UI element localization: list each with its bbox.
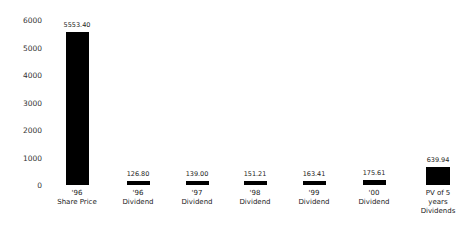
- bar: [244, 181, 267, 185]
- value-label: 639.94: [413, 156, 460, 164]
- bar: [66, 32, 89, 185]
- bar: [186, 181, 209, 185]
- value-label: 126.80: [113, 170, 163, 178]
- y-tick-label: 5000: [2, 43, 42, 52]
- x-tick-label: '96Share Price: [47, 189, 107, 207]
- value-label: 139.00: [172, 170, 222, 178]
- bar: [426, 167, 450, 185]
- x-tick-label: '97Dividend: [167, 189, 227, 207]
- bar: [127, 181, 150, 185]
- value-label: 163.41: [289, 170, 339, 178]
- x-tick-label: '98Dividend: [225, 189, 285, 207]
- x-tick-label: PV of 5yearsDividends: [408, 189, 460, 216]
- y-tick-label: 3000: [2, 98, 42, 107]
- y-tick-label: 4000: [2, 71, 42, 80]
- value-label: 175.61: [349, 169, 399, 177]
- bar: [363, 180, 386, 185]
- value-label: 5553.40: [52, 21, 102, 29]
- y-tick-label: 2000: [2, 126, 42, 135]
- y-tick-label: 1000: [2, 153, 42, 162]
- x-tick-label: '96Dividend: [108, 189, 168, 207]
- y-tick-label: 0: [2, 181, 42, 190]
- value-label: 151.21: [230, 170, 280, 178]
- y-tick-label: 6000: [2, 16, 42, 25]
- x-tick-label: '99Dividend: [284, 189, 344, 207]
- x-tick-label: '00Dividend: [344, 189, 404, 207]
- bar: [303, 181, 326, 185]
